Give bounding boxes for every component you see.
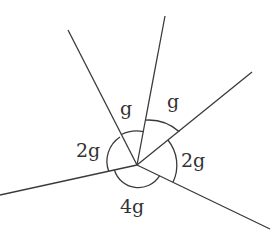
arc-g-right [146,120,180,132]
angle-label: g [167,90,179,112]
angle-diagram: g g 2g 4g 2g [0,0,275,239]
ray-top [137,16,165,165]
ray-left [0,165,137,195]
arc-2g-right [168,140,177,182]
angle-label: g [120,97,132,119]
ray-lower-right [137,165,270,229]
arc-g-upper [121,131,143,135]
angle-label: 2g [181,149,205,171]
arc-2g-left [107,137,120,171]
angle-label: 2g [76,139,100,161]
angle-label: 4g [120,195,144,217]
